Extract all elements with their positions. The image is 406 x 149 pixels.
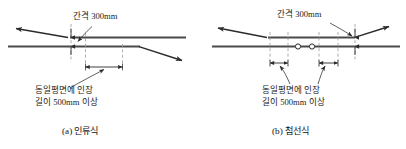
panel-b-length-dimension-right <box>319 60 338 67</box>
panel-b-note-leader-right <box>318 66 325 84</box>
panel-b-gap-leader <box>330 23 352 36</box>
panel-a-caption: (a) 인류식 <box>62 126 99 136</box>
panel-b-length-dimension-left <box>270 60 288 67</box>
panel-a-upper-wire <box>16 29 186 38</box>
insulator-icon <box>295 44 300 49</box>
panel-a-gap-leader <box>78 27 92 42</box>
panel-a-note-line1: 동일평면에 인장 <box>35 85 93 95</box>
panel-b: 간격 300mm 동일평면에 인장 길이 500mm 이상 (b) 첨선식 <box>212 8 400 136</box>
panel-a-gap-label: 간격 300mm <box>73 10 118 21</box>
panel-a-length-dimension <box>86 64 123 71</box>
overhead-wire-connection-figure: 간격 300mm 동일평면에 인장 길이 500mm 이상 (a) 인류식 <box>0 0 406 149</box>
panel-b-note-leader-left <box>280 66 290 84</box>
panel-a: 간격 300mm 동일평면에 인장 길이 500mm 이상 (a) 인류식 <box>8 10 186 136</box>
insulator-icon <box>309 44 314 49</box>
panel-a-note-line2: 길이 500mm 이상 <box>35 97 98 107</box>
panel-b-note-line1: 동일평면에 인장 <box>262 85 320 95</box>
panel-b-caption: (b) 첨선식 <box>272 126 309 136</box>
panel-b-note-line2: 길이 500mm 이상 <box>262 97 325 107</box>
panel-a-lower-wire <box>8 47 182 61</box>
panel-b-upper-wire <box>218 27 389 38</box>
panel-b-gap-label: 간격 300mm <box>277 8 322 19</box>
